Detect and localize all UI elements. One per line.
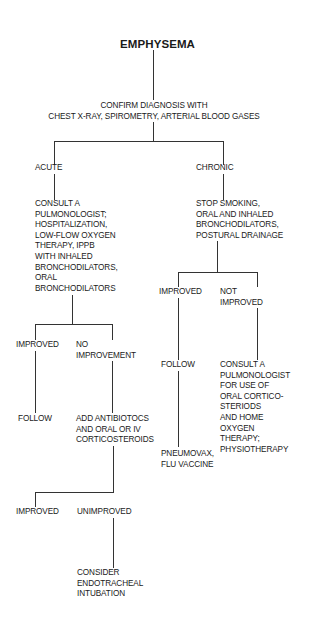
connector-line	[112, 324, 113, 340]
chronic-follow-node: FOLLOW	[161, 360, 195, 371]
connector-line	[153, 122, 154, 141]
connector-line	[35, 324, 113, 325]
endotracheal-intubation-node: CONSIDER ENDOTRACHEAL INTUBATION	[77, 568, 143, 600]
acute-second-improved-node: IMPROVED	[16, 507, 59, 518]
connector-line	[178, 371, 179, 447]
acute-action-node: CONSULT A PULMONOLOGIST; HOSPITALIZATION…	[35, 199, 118, 294]
connector-line	[113, 446, 114, 492]
connector-line	[223, 141, 224, 165]
confirm-diagnosis-node: CONFIRM DIAGNOSIS WITH CHEST X-RAY, SPIR…	[30, 101, 278, 122]
acute-follow-node: FOLLOW	[18, 414, 52, 425]
add-antibiotics-node: ADD ANTIBIOTOCS AND ORAL OR IV CORTICOST…	[76, 414, 154, 446]
chronic-action-node: STOP SMOKING, ORAL AND INHALED BRONCHODI…	[196, 199, 283, 241]
connector-line	[54, 174, 55, 200]
connector-line	[178, 298, 179, 360]
connector-line	[35, 492, 114, 493]
connector-line	[35, 351, 36, 413]
connector-line	[257, 272, 258, 287]
connector-line	[35, 324, 36, 340]
connector-line	[178, 272, 258, 273]
connector-line	[72, 295, 73, 324]
connector-line	[54, 141, 55, 165]
diagram-title: EMPHYSEMA	[120, 38, 195, 50]
connector-line	[153, 50, 154, 100]
pneumovax-node: PNEUMOVAX, FLU VACCINE	[161, 449, 214, 470]
unimproved-node: UNIMPROVED	[77, 507, 132, 518]
connector-line	[217, 241, 218, 272]
connector-line	[257, 308, 258, 360]
chronic-node: CHRONIC	[196, 163, 234, 174]
connector-line	[178, 272, 179, 287]
chronic-improved-node: IMPROVED	[159, 287, 202, 298]
acute-node: ACUTE	[35, 163, 62, 174]
acute-no-improvement-node: NO IMPROVEMENT	[76, 340, 136, 361]
connector-line	[54, 141, 224, 142]
consult-pulmonologist-node: CONSULT A PULMONOLOGIST FOR USE OF ORAL …	[220, 360, 290, 455]
connector-line	[113, 518, 114, 568]
connector-line	[223, 174, 224, 200]
connector-line	[112, 361, 113, 413]
acute-improved-node: IMPROVED	[16, 340, 59, 351]
chronic-not-improved-node: NOT IMPROVED	[220, 287, 263, 308]
connector-line	[35, 492, 36, 507]
